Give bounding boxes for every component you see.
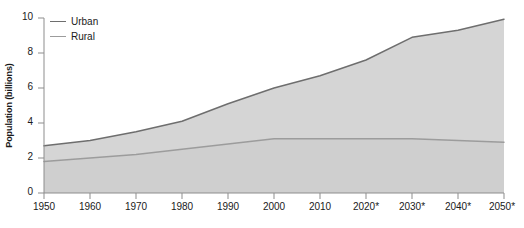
x-axis-ticks <box>44 193 504 199</box>
x-tick-label-2040: 2040* <box>435 201 481 212</box>
x-tick-label-2000: 2000 <box>251 201 297 212</box>
y-tick-label-8: 8 <box>11 46 33 57</box>
y-axis-title: Population (billions) <box>2 18 16 193</box>
legend-item-urban: Urban <box>50 14 98 28</box>
legend-label-urban: Urban <box>71 16 98 27</box>
x-tick-label-1950: 1950 <box>21 201 67 212</box>
y-axis-ticks <box>38 18 44 193</box>
x-tick-label-1960: 1960 <box>67 201 113 212</box>
y-tick-label-10: 10 <box>11 11 33 22</box>
y-tick-label-2: 2 <box>11 151 33 162</box>
x-tick-label-1970: 1970 <box>113 201 159 212</box>
legend-line-swatch-urban <box>50 21 66 22</box>
legend-item-rural: Rural <box>50 29 98 43</box>
x-tick-label-1980: 1980 <box>159 201 205 212</box>
y-tick-label-4: 4 <box>11 116 33 127</box>
legend-label-rural: Rural <box>71 31 95 42</box>
legend-line-swatch-rural <box>50 36 66 37</box>
x-tick-label-2020: 2020* <box>343 201 389 212</box>
y-tick-label-6: 6 <box>11 81 33 92</box>
x-tick-label-2010: 2010 <box>297 201 343 212</box>
chart-figure: Population (billions) 10 8 6 4 2 0 1950 … <box>0 0 524 228</box>
chart-legend: Urban Rural <box>50 14 98 44</box>
y-tick-label-0: 0 <box>11 186 33 197</box>
x-tick-label-2030: 2030* <box>389 201 435 212</box>
x-tick-label-1990: 1990 <box>205 201 251 212</box>
x-tick-label-2050: 2050* <box>479 201 524 212</box>
